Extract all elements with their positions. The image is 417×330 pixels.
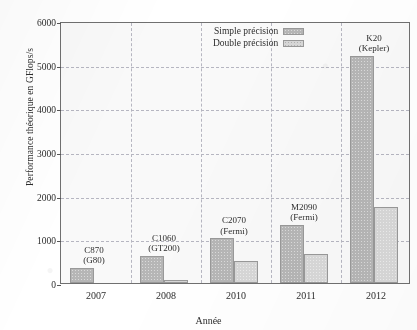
x-tick-label-2011: 2011: [296, 290, 316, 301]
y-tick-label-1000: 1000: [37, 236, 56, 246]
y-tick-mark-5000: [57, 67, 61, 68]
bar-chart: Performance théorique en GFlops/s C870(G…: [0, 0, 417, 330]
bar-annotation-name-2010: C2070: [220, 215, 248, 226]
bar-annotation-arch-2010: (Fermi): [220, 226, 248, 237]
plot-area: C870(G80)C1060(GT200)C2070(Fermi)M2090(F…: [60, 22, 410, 284]
bar-annotation-name-2007: C870: [83, 245, 105, 256]
y-tick-mark-1000: [57, 241, 61, 242]
plot-inner: C870(G80)C1060(GT200)C2070(Fermi)M2090(F…: [61, 23, 409, 283]
y-tick-label-0: 0: [51, 280, 56, 290]
bar-2012-simple-precision: [350, 56, 374, 283]
bar-2008-double-precision: [164, 280, 188, 283]
x-axis-title: Année: [0, 315, 417, 326]
bar-annotation-2007: C870(G80): [83, 245, 105, 266]
bar-2011-double-precision: [304, 254, 328, 283]
bar-annotation-name-2012: K20: [359, 33, 389, 44]
bar-2010-double-precision: [234, 261, 258, 283]
bar-2007-simple-precision: [70, 268, 94, 283]
bar-annotation-2008: C1060(GT200): [148, 233, 180, 254]
bar-annotation-arch-2007: (G80): [83, 255, 105, 266]
x-tick-label-2012: 2012: [366, 290, 386, 301]
y-tick-label-5000: 5000: [37, 62, 56, 72]
legend-item-simple-precision: Simple précision: [213, 25, 304, 37]
bar-2011-simple-precision: [280, 225, 304, 283]
legend-item-double-precision: Double précision: [213, 37, 304, 49]
bar-annotation-name-2011: M2090: [290, 202, 318, 213]
bar-annotation-2011: M2090(Fermi): [290, 202, 318, 223]
y-tick-mark-6000: [57, 23, 61, 24]
bar-2008-simple-precision: [140, 256, 164, 283]
x-tick-label-2010: 2010: [226, 290, 246, 301]
y-tick-label-4000: 4000: [37, 105, 56, 115]
y-tick-mark-3000: [57, 154, 61, 155]
legend-swatch-simple-precision: [283, 28, 304, 35]
gridline-x-2: [201, 23, 202, 283]
legend: Simple précision Double précision: [213, 25, 304, 49]
bar-annotation-arch-2012: (Kepler): [359, 43, 389, 54]
bar-annotation-2012: K20(Kepler): [359, 33, 389, 54]
bar-annotation-arch-2011: (Fermi): [290, 212, 318, 223]
y-axis-title: Performance théorique en GFlops/s: [25, 7, 35, 227]
legend-label-simple-precision: Simple précision: [214, 25, 278, 37]
y-tick-mark-4000: [57, 110, 61, 111]
x-tick-label-2007: 2007: [86, 290, 106, 301]
legend-swatch-double-precision: [283, 40, 304, 47]
bar-annotation-arch-2008: (GT200): [148, 243, 180, 254]
bar-2010-simple-precision: [210, 238, 234, 283]
y-tick-mark-0: [57, 285, 61, 286]
bar-annotation-2010: C2070(Fermi): [220, 215, 248, 236]
gridline-x-4: [341, 23, 342, 283]
legend-label-double-precision: Double précision: [213, 37, 278, 49]
y-tick-mark-2000: [57, 198, 61, 199]
bar-2012-double-precision: [374, 207, 398, 283]
y-tick-label-2000: 2000: [37, 193, 56, 203]
gridline-x-3: [271, 23, 272, 283]
y-tick-label-6000: 6000: [37, 18, 56, 28]
gridline-x-1: [131, 23, 132, 283]
bar-annotation-name-2008: C1060: [148, 233, 180, 244]
x-tick-label-2008: 2008: [156, 290, 176, 301]
y-tick-label-3000: 3000: [37, 149, 56, 159]
